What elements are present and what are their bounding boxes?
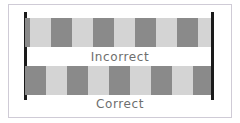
- tile-incorrect-5: [114, 18, 135, 47]
- incorrect-caption: Incorrect: [0, 50, 240, 64]
- tile-incorrect-9: [198, 18, 211, 47]
- tile-incorrect-4: [93, 18, 114, 47]
- figure-stage: Incorrect Correct: [0, 0, 240, 123]
- tile-incorrect-8: [177, 18, 198, 47]
- tile-incorrect-3: [72, 18, 93, 47]
- tile-incorrect-7: [156, 18, 177, 47]
- tile-correct-0: [25, 66, 46, 95]
- tile-incorrect-1: [30, 18, 51, 47]
- tile-correct-4: [109, 66, 130, 95]
- tile-correct-7: [172, 66, 193, 95]
- incorrect-pattern-strip: [25, 18, 211, 47]
- correct-pattern-strip: [25, 66, 211, 95]
- correct-caption: Correct: [0, 97, 240, 111]
- tile-correct-6: [151, 66, 172, 95]
- tile-correct-5: [130, 66, 151, 95]
- tile-correct-1: [46, 66, 67, 95]
- tile-correct-8: [193, 66, 211, 95]
- tile-correct-3: [88, 66, 109, 95]
- tile-incorrect-2: [51, 18, 72, 47]
- pattern-alignment-figure: Incorrect Correct: [0, 0, 240, 123]
- tile-correct-2: [67, 66, 88, 95]
- tile-incorrect-6: [135, 18, 156, 47]
